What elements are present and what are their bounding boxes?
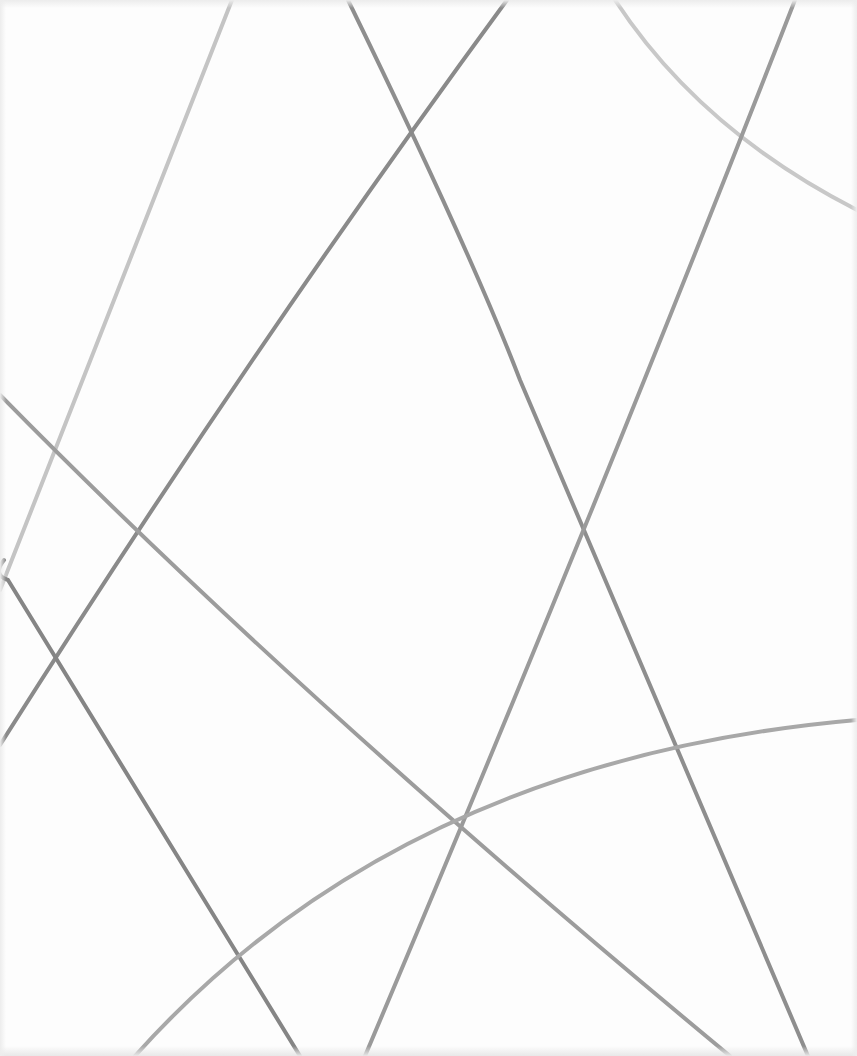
line-l3 — [0, 0, 507, 745]
top-edge-shadow — [0, 0, 857, 8]
line-l8 — [135, 720, 857, 1056]
right-edge-shadow — [851, 0, 857, 1056]
bottom-edge-shadow — [0, 1046, 857, 1056]
line-l7 — [0, 560, 300, 1056]
line-l6 — [0, 395, 730, 1056]
line-l1 — [0, 0, 232, 590]
line-art-canvas — [0, 0, 857, 1056]
abstract-line-pattern — [0, 0, 857, 1056]
line-l2 — [348, 0, 808, 1056]
line-l4 — [615, 0, 857, 210]
line-l5 — [365, 0, 795, 1056]
left-edge-shadow — [0, 0, 6, 1056]
